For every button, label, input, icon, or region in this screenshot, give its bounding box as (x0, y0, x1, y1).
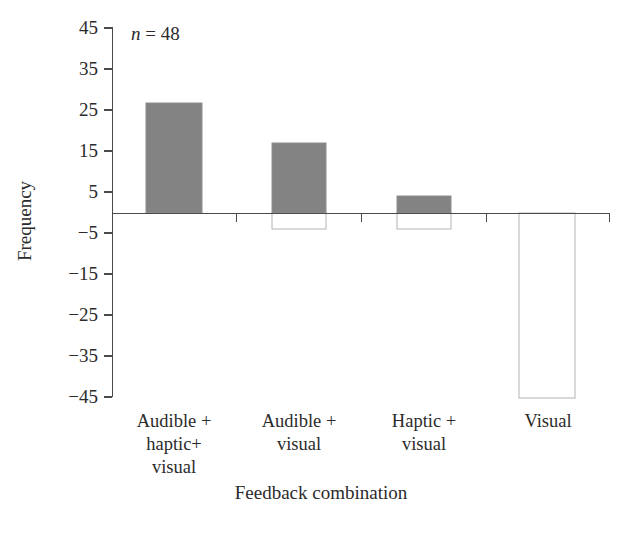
y-axis-title: Frequency (14, 156, 36, 286)
bar-audible-visual (272, 143, 326, 213)
y-axis-ticks (104, 28, 112, 397)
x-tick-label-audible-visual: Audible + visual (235, 410, 363, 456)
y-tick-label-35: 35 (48, 59, 98, 78)
bar-chart-figure: 45 35 25 15 5 −5 −15 −25 −35 −45 n = 48 … (0, 0, 642, 536)
x-tick-label-haptic-visual: Haptic + visual (360, 410, 488, 456)
x-tick-line-1: Visual (484, 410, 612, 433)
x-tick-label-visual: Visual (484, 410, 612, 433)
y-tick-label-15: 15 (48, 141, 98, 160)
x-axis-title: Feedback combination (0, 482, 642, 504)
sample-size-symbol: n (131, 23, 141, 44)
y-tick-label-neg45: −45 (40, 387, 98, 406)
x-tick-line-2: visual (360, 433, 488, 456)
x-tick-line-3: visual (110, 456, 238, 479)
y-tick-label-neg5: −5 (40, 223, 98, 242)
y-tick-label-5: 5 (48, 182, 98, 201)
x-tick-label-audible-haptic-visual: Audible + haptic+ visual (110, 410, 238, 479)
x-tick-line-1: Audible + (235, 410, 363, 433)
x-tick-line-2: haptic+ (110, 433, 238, 456)
bar-audible-haptic-visual (146, 103, 202, 213)
y-tick-label-neg25: −25 (40, 305, 98, 324)
sample-size-annotation: n = 48 (131, 23, 180, 45)
y-tick-label-neg35: −35 (40, 346, 98, 365)
x-tick-line-1: Haptic + (360, 410, 488, 433)
sample-size-value: = 48 (141, 23, 180, 44)
y-tick-label-45: 45 (48, 18, 98, 37)
bar-open-segment-haptic-visual (397, 213, 451, 229)
x-tick-line-1: Audible + (110, 410, 238, 433)
y-tick-label-neg15: −15 (40, 264, 98, 283)
bar-haptic-visual (397, 196, 451, 213)
bar-open-segment-audible-visual (272, 213, 326, 229)
bar-visual (519, 213, 575, 398)
y-tick-label-25: 25 (48, 100, 98, 119)
x-tick-line-2: visual (235, 433, 363, 456)
